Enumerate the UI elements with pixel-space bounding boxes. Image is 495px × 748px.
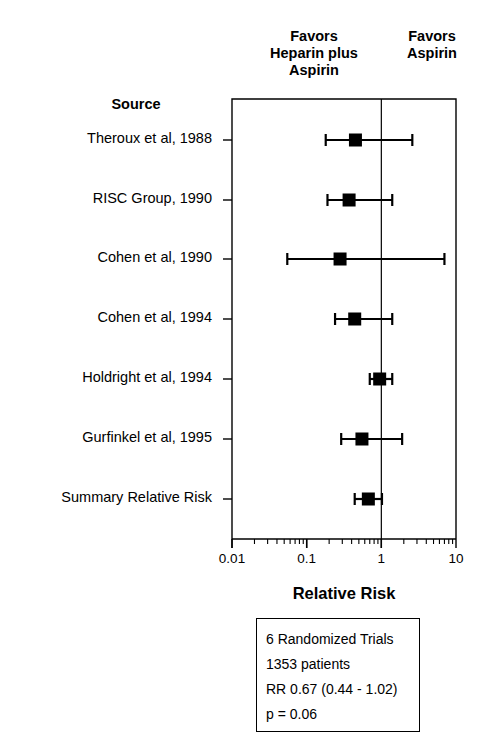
- axis-tick-label: 1: [351, 551, 411, 566]
- summary-statistic-line: p = 0.06: [266, 702, 419, 727]
- study-estimate-marker: [341, 433, 402, 446]
- study-estimate-marker: [287, 253, 444, 266]
- axis-tick-group: [232, 539, 456, 548]
- summary-estimate-marker: [355, 493, 382, 506]
- study-estimate-marker: [370, 373, 392, 386]
- axis-title: Relative Risk: [232, 584, 456, 603]
- study-estimate-marker: [335, 313, 392, 326]
- forest-plot-canvas: [0, 0, 495, 580]
- forest-plot-figure: Favors Heparin plus Aspirin Favors Aspir…: [0, 0, 495, 748]
- summary-statistics-box: 6 Randomized Trials1353 patientsRR 0.67 …: [256, 618, 420, 732]
- summary-statistic-line: 6 Randomized Trials: [266, 627, 419, 652]
- axis-tick-label: 0.1: [277, 551, 337, 566]
- axis-tick-label: 10: [426, 551, 486, 566]
- study-estimate-marker: [326, 134, 413, 147]
- summary-statistic-line: RR 0.67 (0.44 - 1.02): [266, 677, 419, 702]
- axis-tick-label: 0.01: [202, 551, 262, 566]
- summary-statistic-line: 1353 patients: [266, 652, 419, 677]
- study-estimate-marker: [327, 194, 392, 207]
